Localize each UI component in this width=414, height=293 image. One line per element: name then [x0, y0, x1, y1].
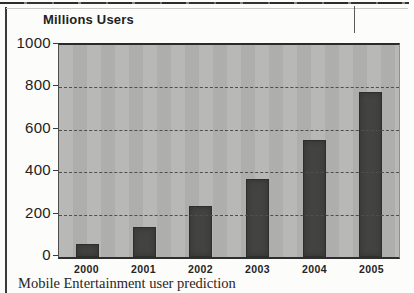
- y-tick-label: 400: [25, 161, 51, 178]
- chart-title: Millions Users: [43, 12, 134, 27]
- bar-2003: [246, 179, 269, 257]
- y-axis-tick: [53, 128, 58, 129]
- bar-slot-2003: [229, 45, 286, 257]
- plot-area: [58, 43, 400, 259]
- y-axis-tick: [53, 213, 58, 214]
- y-tick-label: 600: [25, 119, 51, 136]
- bar-2000: [76, 244, 99, 257]
- gridline-200: [59, 215, 399, 216]
- y-tick-label: 0: [42, 246, 51, 263]
- y-axis-tick: [53, 170, 58, 171]
- bar-slot-2005: [342, 45, 399, 257]
- gridline-400: [59, 172, 399, 173]
- bar-slot-2004: [286, 45, 343, 257]
- y-axis-tick: [53, 255, 58, 256]
- y-axis-tick: [53, 85, 58, 86]
- figure-caption: Mobile Entertainment user prediction: [18, 275, 236, 292]
- x-tick-label-2005: 2005: [343, 263, 400, 278]
- y-tick-label: 800: [25, 76, 51, 93]
- figure-frame-right-border-stub: [354, 6, 355, 33]
- y-tick-label: 200: [25, 203, 51, 220]
- gridline-800: [59, 87, 399, 88]
- scan-edge-artifact: [0, 2, 409, 4]
- bar-2004: [303, 140, 326, 257]
- x-tick-label-2004: 2004: [286, 263, 343, 278]
- gridline-600: [59, 130, 399, 131]
- y-axis-labels: 10008006004002000: [0, 43, 51, 258]
- bar-2005: [359, 92, 382, 257]
- y-axis-tick: [53, 43, 58, 44]
- bar-slot-2002: [172, 45, 229, 257]
- bar-slot-2001: [116, 45, 173, 257]
- bar-slot-2000: [59, 45, 116, 257]
- y-tick-label: 1000: [16, 34, 51, 51]
- x-tick-label-2003: 2003: [229, 263, 286, 278]
- bar-2001: [133, 227, 156, 257]
- bar-series: [59, 45, 399, 257]
- figure-frame-top-border: [6, 8, 408, 9]
